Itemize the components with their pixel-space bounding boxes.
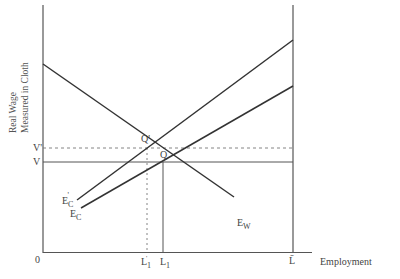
q-prime-label: Q' xyxy=(141,134,150,144)
ec-sub: C xyxy=(76,213,81,222)
l1-sub: 1 xyxy=(166,261,170,270)
lbar-label: L̄ xyxy=(289,256,295,266)
diagram-canvas xyxy=(0,0,400,279)
origin-label: 0 xyxy=(35,255,40,265)
l1-label: L1 xyxy=(160,257,170,270)
ec-prime-mark: ' xyxy=(67,191,68,200)
ec-curve xyxy=(81,86,293,208)
l1-prime-sub: 1 xyxy=(147,261,151,270)
v-label: V xyxy=(33,157,40,167)
ew-label: EW xyxy=(237,218,251,231)
v-prime-label: V' xyxy=(33,143,42,153)
ew-sub: W xyxy=(243,222,251,231)
y-axis-label: Real Wage Measured in Cloth xyxy=(3,5,37,135)
ew-curve xyxy=(43,64,234,197)
ec-prime-curve xyxy=(77,40,293,200)
x-axis-label: Employment xyxy=(320,257,372,267)
y-axis-label-line1: Real Wage xyxy=(8,92,18,133)
y-axis-label-line2: Measured in Cloth xyxy=(20,62,30,133)
q-label: Q xyxy=(160,150,167,160)
l1-prime-label: L1' xyxy=(141,257,152,270)
ec-label: EC xyxy=(70,209,81,222)
